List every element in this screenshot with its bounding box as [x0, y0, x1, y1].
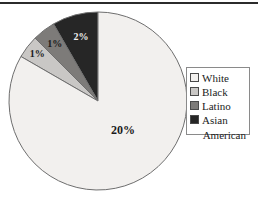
pie-slices-group — [9, 12, 187, 190]
legend-label-asian: Asian — [202, 113, 228, 127]
legend-label-black: Black — [202, 85, 228, 99]
legend-swatch-latino — [190, 101, 199, 110]
legend-item-asian-american[interactable]: Asian — [190, 113, 247, 127]
legend-swatch-white — [190, 73, 199, 82]
pie-value-label-white: 20% — [111, 123, 135, 137]
legend-item-black[interactable]: Black — [190, 85, 247, 99]
pie-svg: 2%1%1%20% — [7, 10, 189, 192]
legend-item-white[interactable]: White — [190, 71, 247, 85]
pie-chart-figure: 2%1%1%20% White Black Latino Asian Ameri… — [0, 0, 258, 200]
pie-plot-area: 2%1%1%20% — [7, 10, 189, 192]
legend-swatch-asian-american — [190, 115, 199, 124]
pie-value-label-asian-american: 2% — [74, 31, 89, 42]
top-divider-rule — [0, 2, 258, 4]
pie-value-label-latino: 1% — [47, 38, 62, 49]
legend-swatch-black — [190, 87, 199, 96]
legend-item-latino[interactable]: Latino — [190, 99, 247, 113]
legend-label-white: White — [202, 71, 229, 85]
legend-label-asian-american-continuation: American — [190, 127, 247, 141]
chart-legend: White Black Latino Asian American — [186, 67, 250, 135]
pie-value-label-black: 1% — [30, 48, 45, 59]
legend-label-latino: Latino — [202, 99, 231, 113]
